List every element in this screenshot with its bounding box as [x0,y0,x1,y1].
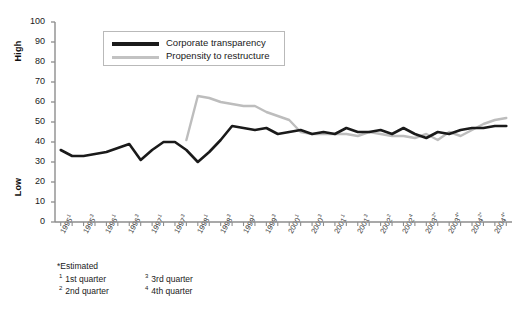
footnote-estimated: *Estimated [57,261,98,271]
chart-figure: High Low 0102030405060708090100 19951199… [0,0,526,315]
legend-label: Corporate transparency [166,37,266,48]
series-line-propensity-to-restructure [186,96,506,140]
footnote-marker: 2 [59,285,62,291]
footnote-quarter-1: 11st quarter [59,274,106,284]
chart-legend: Corporate transparency Propensity to res… [103,31,285,66]
footnote-quarter-4: 44th quarter [145,286,192,296]
legend-label: Propensity to restructure [166,50,270,61]
footnote-marker: 1 [59,273,62,279]
footnote-text: 1st quarter [65,274,106,284]
legend-line-gray-icon [112,56,159,59]
data-series-layer [61,96,507,162]
legend-item-propensity-to-restructure: Propensity to restructure [112,51,280,63]
footnote-text: 4th quarter [151,286,192,296]
footnote-text: 3rd quarter [151,274,193,284]
series-line-corporate-transparency [61,126,507,162]
footnote-marker: 4 [145,285,148,291]
legend-item-corporate-transparency: Corporate transparency [112,38,280,50]
footnote-quarter-2: 22nd quarter [59,286,109,296]
footnote-quarter-3: 33rd quarter [145,274,193,284]
footnote-marker: 3 [145,273,148,279]
legend-line-black-icon [112,42,159,46]
footnote-text: 2nd quarter [65,286,108,296]
